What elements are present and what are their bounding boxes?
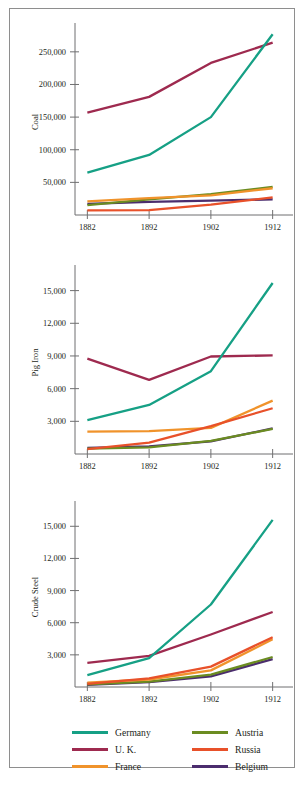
y-tick-label: 150,000: [39, 113, 66, 122]
x-tick-label: 1902: [203, 695, 220, 704]
y-tick-label: 3,000: [47, 651, 66, 660]
x-tick-label: 1882: [79, 223, 96, 232]
y-tick-label: 12,000: [43, 319, 66, 328]
legend-label-france: France: [115, 762, 141, 772]
y-tick-label: 9,000: [47, 587, 66, 596]
y-axis-title: Pig Iron: [30, 348, 40, 377]
series-line-uk: [87, 43, 272, 113]
plot-area-crude-steel: 3,0006,0009,00012,00015,0001882189219021…: [10, 489, 296, 721]
y-tick-label: 15,000: [43, 287, 66, 296]
legend-swatch-uk: [72, 748, 108, 751]
x-tick-label: 1902: [203, 223, 220, 232]
figure-frame: 50,000100,000150,000200,000250,000188218…: [9, 8, 295, 768]
y-tick-label: 6,000: [47, 385, 66, 394]
legend-item[interactable]: Austria: [192, 724, 268, 741]
series-line-germany: [87, 34, 272, 172]
x-tick-label: 1892: [141, 223, 158, 232]
chart-legend: Germany U. K. France Austria Russia: [10, 724, 296, 776]
series-line-germany: [87, 520, 272, 675]
x-tick-label: 1892: [141, 462, 158, 471]
x-tick-label: 1882: [79, 695, 96, 704]
series-line-germany: [87, 283, 272, 420]
y-tick-label: 200,000: [39, 80, 66, 89]
x-tick-label: 1912: [264, 223, 281, 232]
x-tick-label: 1912: [264, 462, 281, 471]
chart-panel-crude-steel: 3,0006,0009,00012,00015,0001882189219021…: [10, 489, 296, 721]
y-tick-label: 12,000: [43, 554, 66, 563]
y-axis-title: Coal: [30, 113, 40, 130]
y-tick-label: 15,000: [43, 522, 66, 531]
legend-label-austria: Austria: [235, 728, 263, 738]
y-tick-label: 9,000: [47, 352, 66, 361]
legend-item[interactable]: U. K.: [72, 741, 151, 758]
y-tick-label: 50,000: [43, 178, 66, 187]
legend-column-left: Germany U. K. France: [72, 724, 151, 775]
legend-column-right: Austria Russia Belgium: [192, 724, 268, 775]
legend-swatch-austria: [192, 731, 228, 734]
series-line-uk: [87, 612, 272, 663]
y-axis-title: Crude Steel: [30, 576, 40, 617]
legend-item[interactable]: Germany: [72, 724, 151, 741]
y-tick-label: 3,000: [47, 417, 66, 426]
legend-item[interactable]: France: [72, 758, 151, 775]
chart-panel-coal: 50,000100,000150,000200,000250,000188218…: [10, 9, 296, 249]
plot-area-pig-iron: 3,0006,0009,00012,00015,0001882189219021…: [10, 249, 296, 489]
y-tick-label: 6,000: [47, 619, 66, 628]
legend-label-belgium: Belgium: [235, 762, 268, 772]
x-tick-label: 1892: [141, 695, 158, 704]
legend-swatch-belgium: [192, 765, 228, 768]
x-tick-label: 1912: [264, 695, 281, 704]
legend-swatch-russia: [192, 748, 228, 751]
chart-panel-pig-iron: 3,0006,0009,00012,00015,0001882189219021…: [10, 249, 296, 489]
legend-swatch-france: [72, 765, 108, 768]
series-line-uk: [87, 355, 272, 380]
y-tick-label: 100,000: [39, 146, 66, 155]
legend-swatch-germany: [72, 731, 108, 734]
legend-item[interactable]: Russia: [192, 741, 268, 758]
legend-item[interactable]: Belgium: [192, 758, 268, 775]
legend-label-germany: Germany: [115, 728, 151, 738]
legend-label-uk: U. K.: [115, 745, 136, 755]
x-tick-label: 1882: [79, 462, 96, 471]
y-tick-label: 250,000: [39, 48, 66, 57]
legend-label-russia: Russia: [235, 745, 261, 755]
x-tick-label: 1902: [203, 462, 220, 471]
plot-area-coal: 50,000100,000150,000200,000250,000188218…: [10, 9, 296, 249]
